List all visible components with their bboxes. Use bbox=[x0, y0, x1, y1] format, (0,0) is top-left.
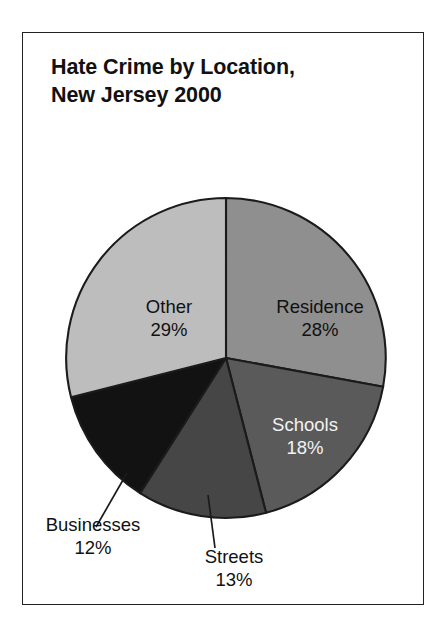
pie-chart: Residence 28% Other 29% Schools 18% Stre… bbox=[23, 33, 425, 606]
pie-slice-residence[interactable] bbox=[226, 198, 386, 387]
pie-chart-svg bbox=[23, 33, 425, 606]
leader-line-businesses bbox=[96, 473, 127, 527]
figure-frame: Hate Crime by Location, New Jersey 2000 … bbox=[22, 32, 424, 605]
